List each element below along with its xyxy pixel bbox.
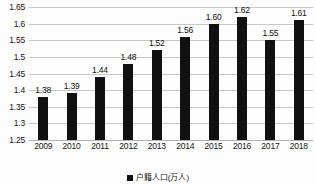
bar-value-label: 1.56 [177, 26, 193, 35]
x-axis-tick-label: 2012 [119, 142, 137, 151]
bar-group: 1.52 [143, 7, 171, 140]
y-axis-tick-label: 1.55 [9, 36, 25, 45]
bar-group: 1.48 [114, 7, 142, 140]
bar-group: 1.62 [228, 7, 256, 140]
bar-group: 1.38 [29, 7, 57, 140]
bar [265, 40, 275, 140]
bar [123, 64, 133, 140]
bar [152, 50, 162, 140]
bar-value-label: 1.55 [263, 29, 279, 38]
x-axis-tick-label: 2013 [148, 142, 166, 151]
plot-area: 1.251.31.351.41.451.51.551.61.651.381.39… [29, 7, 313, 140]
bar [95, 77, 105, 140]
bar [294, 20, 304, 140]
bar-value-label: 1.44 [92, 66, 108, 75]
x-axis-tick-label: 2009 [34, 142, 52, 151]
bar-value-label: 1.39 [64, 82, 80, 91]
bar-group: 1.55 [256, 7, 284, 140]
y-axis-tick-label: 1.5 [14, 53, 25, 62]
bar-value-label: 1.38 [35, 86, 51, 95]
x-axis-tick-label: 2018 [290, 142, 308, 151]
bar-group: 1.44 [86, 7, 114, 140]
bar [209, 24, 219, 140]
bar-value-label: 1.60 [206, 13, 222, 22]
bar-chart: 1.251.31.351.41.451.51.551.61.651.381.39… [0, 0, 316, 184]
y-axis-tick-label: 1.6 [14, 19, 25, 28]
bar [38, 97, 48, 140]
bar-group: 1.39 [57, 7, 85, 140]
chart-legend: 户籍人口(万人) [0, 171, 316, 184]
y-axis-tick-label: 1.65 [9, 3, 25, 12]
x-axis-tick-label: 2011 [91, 142, 108, 151]
y-axis-tick-label: 1.35 [9, 103, 25, 112]
bar [67, 93, 77, 140]
bar-group: 1.61 [285, 7, 313, 140]
x-axis-tick-label: 2015 [205, 142, 223, 151]
y-axis-tick-label: 1.25 [9, 136, 25, 145]
legend-square-marker-icon [127, 175, 133, 181]
bar [237, 17, 247, 140]
bar-value-label: 1.48 [121, 53, 137, 62]
x-axis-tick-label: 2016 [233, 142, 251, 151]
bar-group: 1.60 [199, 7, 227, 140]
bar-group: 1.56 [171, 7, 199, 140]
y-axis-tick-label: 1.45 [9, 69, 25, 78]
x-axis-tick-label: 2017 [261, 142, 279, 151]
bar-value-label: 1.61 [291, 9, 307, 18]
bar-value-label: 1.52 [149, 39, 165, 48]
legend-label: 户籍人口(万人) [136, 174, 189, 182]
x-axis-tick-label: 2014 [176, 142, 194, 151]
bar [180, 37, 190, 140]
y-axis-tick-label: 1.3 [14, 119, 25, 128]
bar-value-label: 1.62 [234, 6, 250, 15]
x-axis: 2009201020112012201320142015201620172018 [29, 142, 313, 156]
y-axis-tick-label: 1.4 [14, 86, 25, 95]
x-axis-tick-label: 2010 [63, 142, 81, 151]
